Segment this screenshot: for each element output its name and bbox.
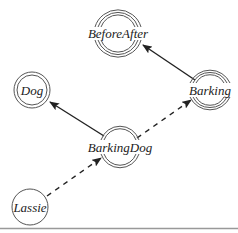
edge-barkingdog-to-dog [50, 102, 104, 136]
edge-barking-to-beforeafter [143, 45, 195, 80]
node-label: Dog [20, 83, 44, 98]
edge-lassie-to-barkingdog [47, 158, 101, 196]
node-dog[interactable]: Dog [14, 72, 50, 108]
node-label: Lassie [12, 200, 46, 215]
node-beforeafter[interactable]: BeforeAfter [88, 10, 149, 57]
node-lassie[interactable]: Lassie [12, 189, 48, 225]
node-label: BeforeAfter [88, 26, 149, 41]
node-label: Barking [189, 83, 231, 98]
node-barking[interactable]: Barking [189, 70, 231, 110]
edge-barkingdog-to-barking [137, 100, 191, 138]
diagram-canvas: BeforeAfter Dog Barking BarkingDog Lassi… [0, 0, 238, 233]
node-label: BarkingDog [88, 140, 153, 155]
